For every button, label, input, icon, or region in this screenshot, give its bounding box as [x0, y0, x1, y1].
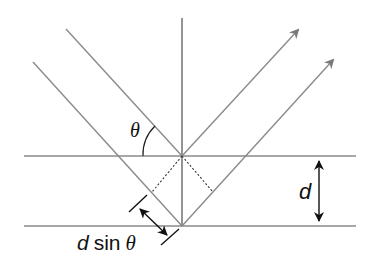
incident-ray-1	[66, 29, 182, 156]
dsin-label: dsinθ	[77, 231, 136, 255]
path-difference-dotted-right	[182, 156, 213, 192]
dsin-sin: sin	[94, 231, 121, 254]
d-label: d	[299, 179, 312, 204]
dsin-tick-top	[129, 195, 147, 212]
dsin-arrow	[140, 209, 167, 235]
dsin-d: d	[77, 231, 90, 254]
dsin-theta: θ	[126, 231, 136, 255]
path-difference-dotted-left	[152, 156, 182, 192]
theta-label: θ	[130, 119, 140, 141]
theta-arc	[143, 126, 155, 156]
bragg-diagram: θ d dsinθ	[0, 0, 374, 266]
reflected-ray-1	[182, 30, 298, 156]
incident-ray-2	[33, 62, 182, 226]
